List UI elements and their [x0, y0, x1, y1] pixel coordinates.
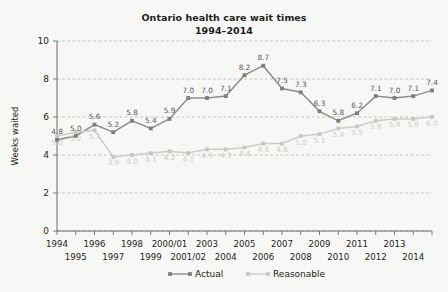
data-point-label: 5.8 [332, 108, 344, 117]
data-point-label: 5.9 [389, 120, 401, 129]
x-tick-label: 2009 [309, 239, 331, 249]
data-point-marker [261, 64, 265, 68]
x-tick-label: 1999 [140, 252, 162, 262]
data-point-label: 5.0 [295, 138, 307, 147]
data-point-label: 5.5 [351, 128, 363, 137]
data-point-label: 5.3 [89, 132, 101, 141]
legend-marker [246, 272, 250, 276]
data-point-label: 7.0 [182, 86, 194, 95]
y-tick-label: 0 [43, 226, 49, 236]
data-point-marker [205, 96, 209, 100]
x-tick-label: 1996 [84, 239, 106, 249]
x-tick-label: 2014 [402, 252, 424, 262]
data-point-label: 5.0 [51, 138, 63, 147]
y-tick-label: 2 [43, 188, 49, 198]
x-tick-label: 2007 [271, 239, 293, 249]
legend-marker [188, 272, 192, 276]
data-point-marker [168, 117, 172, 121]
x-tick-label: 2004 [215, 252, 237, 262]
data-point-label: 5.8 [370, 122, 382, 131]
data-point-label: 7.3 [295, 80, 307, 89]
data-point-label: 8.7 [257, 53, 269, 62]
chart-svg: 0246810 1994199619982000/012003200520072… [0, 0, 448, 292]
data-point-label: 4.1 [182, 155, 194, 164]
data-point-label: 3.9 [107, 158, 119, 167]
data-series-group [55, 64, 434, 159]
data-point-label: 4.8 [51, 127, 63, 136]
legend-marker [266, 272, 270, 276]
data-point-marker [299, 90, 303, 94]
data-point-marker [111, 130, 115, 134]
x-axis-ticks-group: 1994199619982000/01200320052007200920112… [46, 231, 432, 262]
y-tick-label: 4 [43, 150, 49, 160]
legend-marker [168, 272, 172, 276]
x-tick-label: 2008 [290, 252, 312, 262]
data-point-marker [149, 127, 153, 131]
data-point-marker [130, 119, 134, 123]
data-point-label: 4.6 [276, 145, 288, 154]
x-tick-label: 2001/02 [170, 252, 206, 262]
data-point-label: 5.2 [70, 134, 82, 143]
x-tick-label: 2010 [327, 252, 349, 262]
data-point-marker [280, 87, 284, 91]
data-point-label: 5.6 [89, 112, 101, 121]
data-point-label: 7.0 [389, 86, 401, 95]
x-tick-label: 2005 [234, 239, 256, 249]
data-point-label: 5.4 [145, 116, 157, 125]
data-point-label: 5.4 [332, 130, 344, 139]
y-tick-label: 8 [43, 74, 49, 84]
x-tick-label: 1998 [121, 239, 143, 249]
x-tick-label: 2000/01 [152, 239, 188, 249]
data-point-marker [411, 94, 415, 98]
data-point-label: 7.4 [426, 78, 438, 87]
data-point-label: 4.3 [220, 151, 232, 160]
data-point-marker [224, 94, 228, 98]
data-point-marker [186, 96, 190, 100]
data-point-label: 7.5 [276, 76, 288, 85]
chart-legend: ActualReasonable [168, 269, 325, 279]
x-tick-label: 1997 [102, 252, 124, 262]
y-axis-label: Weeks waited [10, 107, 20, 166]
data-point-label: 5.1 [314, 136, 326, 145]
data-point-label: 4.0 [126, 157, 138, 166]
x-tick-label: 2013 [384, 239, 406, 249]
data-point-label: 4.4 [239, 149, 251, 158]
data-point-label: 7.1 [407, 84, 419, 93]
legend-item-reasonable[interactable]: Reasonable [246, 269, 325, 279]
data-point-label: 7.0 [201, 86, 213, 95]
data-point-marker [336, 119, 340, 123]
x-tick-label: 2006 [252, 252, 274, 262]
data-point-label: 5.2 [107, 120, 119, 129]
x-tick-label: 1994 [46, 239, 68, 249]
data-point-label: 5.0 [70, 124, 82, 133]
x-tick-label: 2003 [196, 239, 218, 249]
chart-container: Ontario health care wait times 1994–2014… [0, 0, 448, 292]
data-point-label: 4.1 [145, 155, 157, 164]
x-tick-label: 2012 [365, 252, 387, 262]
legend-item-actual[interactable]: Actual [168, 269, 223, 279]
data-point-marker [93, 123, 97, 127]
data-point-marker [393, 96, 397, 100]
data-point-label: 4.3 [201, 151, 213, 160]
data-point-label: 4.2 [164, 153, 176, 162]
data-point-label: 5.9 [164, 106, 176, 115]
data-point-marker [374, 94, 378, 98]
data-point-marker [430, 89, 434, 93]
data-point-label: 5.9 [407, 120, 419, 129]
legend-label: Actual [195, 269, 223, 279]
data-point-marker [355, 111, 359, 115]
legend-label: Reasonable [273, 269, 326, 279]
data-point-label: 8.2 [239, 63, 251, 72]
data-point-label: 6.3 [314, 99, 326, 108]
y-tick-label: 6 [43, 112, 49, 122]
data-point-label: 5.8 [126, 108, 138, 117]
x-tick-label: 1995 [65, 252, 87, 262]
data-point-label: 4.6 [257, 145, 269, 154]
data-point-label: 7.1 [220, 84, 232, 93]
data-point-marker [318, 109, 322, 113]
y-tick-label: 10 [38, 36, 50, 46]
data-point-marker [243, 73, 247, 77]
data-point-label: 6.2 [351, 101, 363, 110]
x-tick-label: 2011 [346, 239, 368, 249]
data-point-label: 7.1 [370, 84, 382, 93]
